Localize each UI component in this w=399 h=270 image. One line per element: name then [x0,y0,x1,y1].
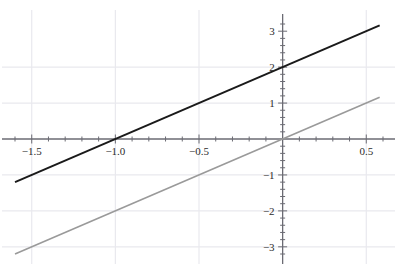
cartesian-plot: −1.5−1.0−0.50.5 −3−2−1123 [0,0,399,270]
y-tick-label: −2 [263,205,275,217]
x-tick-label: −1.5 [22,145,42,157]
x-axis-tick-labels: −1.5−1.0−0.50.5 [22,145,374,157]
y-tick-label: −1 [263,169,275,181]
data-series-layer [15,25,380,254]
y-tick-label: −3 [263,241,275,253]
x-tick-label: 0.5 [359,145,373,157]
x-tick-label: −0.5 [189,145,209,157]
y-tick-label: 2 [269,61,275,73]
series-line-0 [15,25,380,182]
series-line-1 [15,97,380,254]
graph-figure: p u p a j y −1.5−1.0−0.50.5 −3−2−1123 [0,0,399,270]
y-tick-label: 1 [269,97,275,109]
y-tick-label: 3 [269,25,275,37]
x-tick-label: −1.0 [105,145,125,157]
